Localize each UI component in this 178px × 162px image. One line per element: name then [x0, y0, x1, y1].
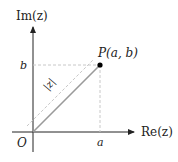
- point-p: [97, 62, 102, 67]
- modulus-dimension-line: [27, 59, 94, 126]
- segment-op: [33, 65, 100, 132]
- x-axis-label: Re(z): [141, 125, 173, 139]
- y-axis-label: Im(z): [16, 9, 48, 23]
- a-tick-label: a: [97, 136, 104, 149]
- origin-label: O: [17, 136, 27, 150]
- b-tick-label: b: [20, 59, 27, 72]
- point-label: P(a, b): [97, 46, 138, 60]
- modulus-label: |z|: [41, 76, 58, 93]
- complex-plane-diagram: Im(z) Re(z) O P(a, b) b a |z|: [0, 0, 178, 162]
